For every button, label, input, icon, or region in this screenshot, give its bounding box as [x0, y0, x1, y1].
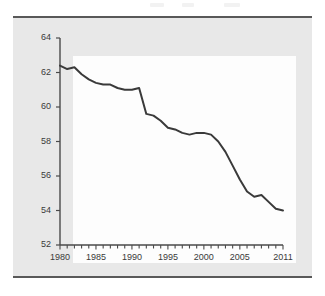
y-tick-label: 54	[31, 205, 51, 215]
y-tick-label: 52	[31, 239, 51, 249]
x-tick-label: 2000	[188, 252, 220, 262]
x-tick-label: 2011	[267, 252, 299, 262]
data-line-1	[60, 66, 283, 211]
axes-group	[56, 38, 283, 250]
x-tick-label: 1980	[44, 252, 76, 262]
x-tick-label: 1990	[116, 252, 148, 262]
y-tick-label: 64	[31, 32, 51, 42]
x-tick-label: 2005	[224, 252, 256, 262]
y-tick-label: 56	[31, 170, 51, 180]
y-tick-label: 62	[31, 67, 51, 77]
series-group	[60, 66, 283, 211]
x-tick-label: 1985	[80, 252, 112, 262]
figure-container: 5254565860626419801985199019952000200520…	[0, 0, 325, 296]
y-tick-label: 58	[31, 136, 51, 146]
y-tick-label: 60	[31, 101, 51, 111]
x-tick-label: 1995	[152, 252, 184, 262]
